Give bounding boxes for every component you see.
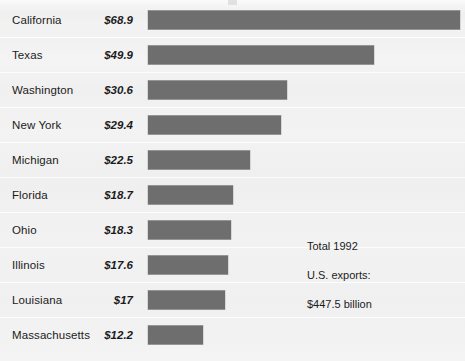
value-bar <box>148 150 250 169</box>
row-separator <box>0 72 465 73</box>
state-label: Illinois <box>12 259 45 271</box>
state-label: Washington <box>12 84 73 96</box>
state-label: Florida <box>12 189 48 201</box>
chart-row: Massachusetts$12.2 <box>0 317 465 352</box>
row-separator <box>0 177 465 178</box>
bar-track <box>148 45 374 64</box>
row-separator <box>0 282 465 283</box>
bar-track <box>148 115 281 134</box>
bar-track <box>148 255 228 274</box>
chart-row: Washington$30.6 <box>0 72 465 107</box>
state-label: Michigan <box>12 154 59 166</box>
row-separator <box>0 247 465 248</box>
value-bar <box>148 45 374 64</box>
annotation-line-2: U.S. exports: <box>307 268 372 283</box>
state-value-label: $29.4 <box>78 119 133 131</box>
state-label: Ohio <box>12 224 37 236</box>
chart-rows: California$68.9Texas$49.9Washington$30.6… <box>0 0 465 361</box>
value-bar <box>148 220 231 239</box>
value-bar <box>148 255 228 274</box>
export-bar-chart: California$68.9Texas$49.9Washington$30.6… <box>0 0 465 361</box>
bar-track <box>148 10 460 29</box>
row-separator <box>0 107 465 108</box>
state-label: California <box>12 14 62 26</box>
bar-track <box>148 80 287 99</box>
chart-row: California$68.9 <box>0 2 465 37</box>
value-bar <box>148 10 460 29</box>
row-separator <box>0 142 465 143</box>
state-label: New York <box>12 119 61 131</box>
annotation-line-1: Total 1992 <box>307 239 372 254</box>
row-separator <box>0 317 465 318</box>
bar-track <box>148 325 203 344</box>
value-bar <box>148 115 281 134</box>
state-value-label: $30.6 <box>78 84 133 96</box>
chart-row: Louisiana$17 <box>0 282 465 317</box>
state-value-label: $68.9 <box>78 14 133 26</box>
value-bar <box>148 325 203 344</box>
state-value-label: $49.9 <box>78 49 133 61</box>
chart-row: Texas$49.9 <box>0 37 465 72</box>
state-value-label: $18.7 <box>78 189 133 201</box>
state-value-label: $12.2 <box>78 329 133 341</box>
chart-row: New York$29.4 <box>0 107 465 142</box>
state-value-label: $18.3 <box>78 224 133 236</box>
bar-track <box>148 185 233 204</box>
value-bar <box>148 80 287 99</box>
row-separator <box>0 212 465 213</box>
row-separator <box>0 37 465 38</box>
chart-row: Florida$18.7 <box>0 177 465 212</box>
state-value-label: $22.5 <box>78 154 133 166</box>
annotation-line-3: $447.5 billion <box>307 297 372 312</box>
chart-row: Michigan$22.5 <box>0 142 465 177</box>
total-exports-annotation: Total 1992 U.S. exports: $447.5 billion <box>307 224 372 326</box>
state-value-label: $17 <box>78 294 133 306</box>
state-label: Texas <box>12 49 43 61</box>
state-value-label: $17.6 <box>78 259 133 271</box>
state-label: Louisiana <box>12 294 62 306</box>
bar-track <box>148 150 250 169</box>
value-bar <box>148 290 225 309</box>
chart-row: Illinois$17.6 <box>0 247 465 282</box>
chart-row: Ohio$18.3 <box>0 212 465 247</box>
value-bar <box>148 185 233 204</box>
bar-track <box>148 220 231 239</box>
bar-track <box>148 290 225 309</box>
